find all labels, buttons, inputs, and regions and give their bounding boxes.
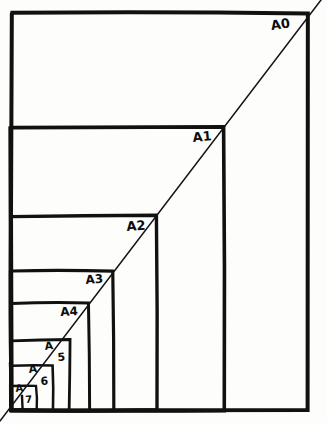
- label-part-a-7: A: [28, 363, 38, 375]
- label-a0-0: A0: [270, 16, 291, 32]
- label-a3-3: A3: [85, 273, 103, 286]
- label-part-6-8: 6: [40, 375, 48, 387]
- divider-line-0: [22, 396, 23, 410]
- extra-line-group: [22, 396, 23, 410]
- label-a4-4: A4: [60, 305, 78, 318]
- label-part-a-9: A: [15, 383, 24, 394]
- diagonal-line: [0, 0, 321, 421]
- nested-rectangles-figure: [0, 0, 327, 423]
- label-part-5-6: 5: [57, 351, 65, 363]
- label-a2-2: A2: [126, 219, 146, 233]
- label-part-a-5: A: [44, 340, 54, 352]
- label-part-7-10: 7: [25, 395, 33, 405]
- diagram-canvas: A0A1A2A3A4A5A6A7: [0, 0, 327, 423]
- label-a1-1: A1: [192, 129, 212, 144]
